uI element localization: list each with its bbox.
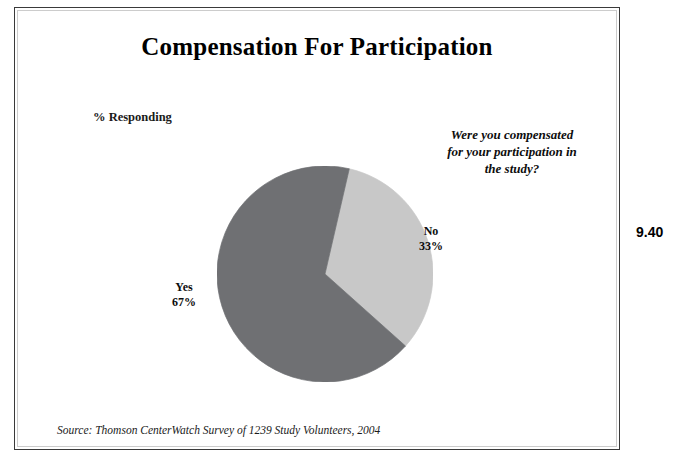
question-line-3: the study? <box>417 160 607 177</box>
question-line-1: Were you compensated <box>417 126 607 143</box>
pie-label-no-name: No <box>419 224 443 239</box>
percent-responding-label: % Responding <box>93 110 172 125</box>
pie-label-no-value: 33% <box>419 239 443 254</box>
pie-label-yes: Yes 67% <box>172 280 196 310</box>
survey-question: Were you compensated for your participat… <box>417 126 607 177</box>
page-number: 9.40 <box>636 224 663 240</box>
pie-chart <box>217 166 433 382</box>
pie-label-yes-value: 67% <box>172 295 196 310</box>
source-note: Source: Thomson CenterWatch Survey of 12… <box>57 424 380 436</box>
slide-frame: Compensation For Participation % Respond… <box>14 7 620 450</box>
question-line-2: for your participation in <box>417 143 607 160</box>
pie-label-yes-name: Yes <box>172 280 196 295</box>
pie-label-no: No 33% <box>419 224 443 254</box>
page-title: Compensation For Participation <box>15 33 619 61</box>
